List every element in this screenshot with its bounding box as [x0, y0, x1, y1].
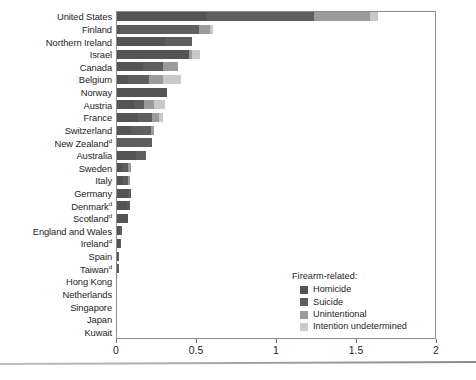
bar-segment [117, 151, 136, 160]
category-label: Finland [0, 25, 112, 34]
category-label: France [0, 113, 112, 122]
category-label: Spain [0, 252, 112, 261]
bar-segment [163, 75, 181, 84]
bar-segment [144, 100, 154, 109]
axis-tick [356, 339, 357, 343]
table-row [117, 239, 121, 248]
bar-segment [138, 113, 152, 122]
table-row [117, 50, 200, 59]
axis-tick-label: 1.5 [336, 345, 376, 356]
table-row [117, 25, 213, 34]
legend-label: Intention undetermined [313, 322, 407, 331]
bar-segment [118, 252, 119, 261]
table-row [117, 126, 154, 135]
legend-label: Suicide [313, 298, 343, 307]
bar-segment [370, 12, 378, 21]
axis-tick-label: 1 [256, 345, 296, 356]
axis-tick-label: 0 [96, 345, 136, 356]
table-row [117, 176, 130, 185]
footnote-marker: d [109, 212, 112, 219]
axis-tick-label: 2 [416, 345, 456, 356]
footnote-marker: d [109, 263, 112, 270]
bar-segment [117, 189, 128, 198]
category-label: Taiwand [0, 265, 112, 274]
bar-segment [117, 62, 143, 71]
category-label: Austria [0, 101, 112, 110]
category-label: Australia [0, 151, 112, 160]
legend-label: Homicide [313, 285, 351, 294]
bar-segment [192, 50, 200, 59]
bar-segment [118, 264, 119, 273]
legend-swatch [300, 286, 308, 294]
category-label: Netherlands [0, 290, 112, 299]
legend-item: Unintentional [300, 310, 407, 319]
bar-segment [120, 239, 121, 248]
footnote-marker: d [109, 237, 112, 244]
bar-segment [165, 37, 192, 46]
bar-segment [199, 25, 210, 34]
table-row [117, 189, 131, 198]
bar-segment [117, 75, 128, 84]
legend-item: Intention undetermined [300, 322, 407, 331]
bar-segment [127, 201, 130, 210]
category-label: New Zealandd [0, 139, 112, 148]
bar-segment [135, 100, 145, 109]
legend: Firearm-related: HomicideSuicideUnintent… [292, 272, 407, 335]
bar-segment [151, 126, 154, 135]
category-label: Japan [0, 315, 112, 324]
bar-segment [163, 62, 177, 71]
bar-segment [120, 226, 122, 235]
category-label: Germany [0, 189, 112, 198]
footnote-marker: d [109, 200, 112, 207]
category-label: Hong Kong [0, 277, 112, 286]
bar-segment [120, 25, 198, 34]
table-row [117, 113, 163, 122]
bar-segment [117, 12, 207, 21]
bar-segment [159, 113, 164, 122]
category-label: Denmarkd [0, 202, 112, 211]
axis-tick [196, 339, 197, 343]
footnote-marker: d [109, 136, 112, 143]
table-row [117, 252, 119, 261]
table-row [117, 151, 146, 160]
legend-item: Homicide [300, 285, 407, 294]
bar-segment [154, 100, 165, 109]
bar-segment [117, 37, 165, 46]
legend-swatch [300, 311, 308, 319]
bar-segment [128, 163, 131, 172]
category-label: Italy [0, 176, 112, 185]
bar-segment [117, 88, 167, 97]
axis-tick-label: 0.5 [176, 345, 216, 356]
category-label: Scotlandd [0, 214, 112, 223]
category-label: England and Wales [0, 227, 112, 236]
table-row [117, 75, 181, 84]
bar-segment [210, 25, 213, 34]
bar-segment [117, 201, 127, 210]
firearm-death-rate-chart: United StatesFinlandNorthern IrelandIsra… [0, 0, 476, 380]
legend-items: HomicideSuicideUnintentionalIntention un… [292, 285, 407, 331]
bar-segment [128, 75, 149, 84]
category-label: Singapore [0, 303, 112, 312]
category-label: Israel [0, 50, 112, 59]
legend-item: Suicide [300, 298, 407, 307]
legend-label: Unintentional [313, 310, 367, 319]
category-label: Sweden [0, 164, 112, 173]
table-row [117, 214, 128, 223]
table-row [117, 264, 119, 273]
category-label: Northern Ireland [0, 38, 112, 47]
bar-segment [136, 151, 146, 160]
category-label: Irelandd [0, 239, 112, 248]
bar-segment [149, 75, 163, 84]
bar-segment [117, 214, 128, 223]
category-label: Kuwait [0, 328, 112, 337]
bar-segment [117, 50, 189, 59]
bar-segment [117, 126, 131, 135]
table-row [117, 88, 167, 97]
table-row [117, 62, 178, 71]
bar-segment [314, 12, 370, 21]
legend-swatch [300, 298, 308, 306]
table-row [117, 37, 192, 46]
legend-title: Firearm-related: [292, 272, 407, 281]
category-label: Norway [0, 88, 112, 97]
category-label: United States [0, 12, 112, 21]
